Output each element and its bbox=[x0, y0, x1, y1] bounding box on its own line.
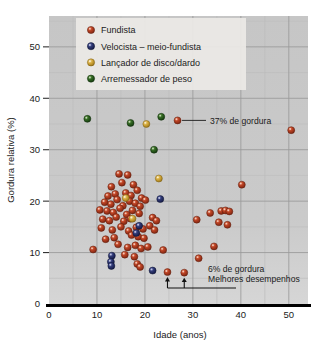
data-point-highlight bbox=[106, 194, 108, 196]
data-point bbox=[108, 183, 115, 190]
data-point-highlight bbox=[208, 211, 210, 213]
legend-marker-highlight bbox=[89, 44, 91, 46]
data-point bbox=[101, 199, 108, 206]
data-point bbox=[96, 206, 103, 213]
data-point-highlight bbox=[109, 202, 111, 204]
legend-marker-arremessador bbox=[87, 75, 94, 82]
x-tick-label: 20 bbox=[140, 309, 151, 320]
data-point bbox=[140, 235, 147, 242]
x-axis-label: Idade (anos) bbox=[153, 329, 206, 340]
annotation-6-label-line2: Melhores desempenhos bbox=[208, 274, 300, 284]
data-point bbox=[158, 113, 165, 120]
data-point bbox=[207, 209, 214, 216]
data-point-highlight bbox=[182, 271, 184, 273]
legend-item-arremessador[interactable]: Arremessador de peso bbox=[87, 74, 192, 84]
legend-item-velocista[interactable]: Velocista – meio-fundista bbox=[87, 42, 201, 52]
legend-label-velocista: Velocista – meio-fundista bbox=[101, 42, 201, 52]
data-point bbox=[155, 175, 162, 182]
data-point-highlight bbox=[289, 128, 291, 130]
data-point-highlight bbox=[126, 245, 128, 247]
chart-canvas: 01020304050 01020304050 37% de gordura 6… bbox=[0, 0, 321, 344]
data-point-highlight bbox=[125, 212, 127, 214]
data-point bbox=[151, 146, 158, 153]
y-tick-label: 20 bbox=[29, 196, 40, 207]
data-point-highlight bbox=[110, 254, 112, 256]
data-point bbox=[138, 245, 145, 252]
data-point-highlight bbox=[116, 242, 118, 244]
data-point bbox=[143, 121, 150, 128]
data-point bbox=[144, 243, 151, 250]
legend-marker-fundista bbox=[87, 26, 94, 33]
legend-marker-highlight bbox=[89, 28, 91, 30]
data-point-highlight bbox=[143, 198, 145, 200]
data-point-highlight bbox=[212, 244, 214, 246]
data-point-highlight bbox=[154, 219, 156, 221]
data-point bbox=[118, 179, 125, 186]
data-point bbox=[107, 201, 114, 208]
y-tick-label: 0 bbox=[35, 298, 40, 309]
data-point bbox=[116, 170, 123, 177]
data-point bbox=[104, 207, 111, 214]
data-point-highlight bbox=[131, 183, 133, 185]
legend-item-lancador[interactable]: Lançador de disco/dardo bbox=[87, 58, 200, 68]
data-point bbox=[238, 181, 245, 188]
annotation-6-label-line1: 6% de gordura bbox=[208, 264, 265, 274]
data-point-highlight bbox=[130, 208, 132, 210]
data-point-highlight bbox=[144, 122, 146, 124]
data-point bbox=[124, 244, 131, 251]
legend-marker-lancador bbox=[87, 59, 94, 66]
data-point-highlight bbox=[159, 115, 161, 117]
data-point bbox=[129, 215, 136, 222]
data-point-highlight bbox=[153, 228, 155, 230]
data-point bbox=[111, 234, 118, 241]
data-point-highlight bbox=[151, 216, 153, 218]
data-point-highlight bbox=[109, 264, 111, 266]
data-point-highlight bbox=[157, 176, 159, 178]
data-point-highlight bbox=[219, 209, 221, 211]
data-point-highlight bbox=[142, 236, 144, 238]
data-point-highlight bbox=[152, 148, 154, 150]
data-point-highlight bbox=[135, 262, 137, 264]
data-point-highlight bbox=[227, 209, 229, 211]
data-point-highlight bbox=[133, 243, 135, 245]
y-tick-label: 30 bbox=[29, 144, 40, 155]
data-point-highlight bbox=[133, 201, 135, 203]
data-point-highlight bbox=[119, 225, 121, 227]
data-point bbox=[90, 246, 97, 253]
data-point-highlight bbox=[124, 196, 126, 198]
data-point-highlight bbox=[140, 196, 142, 198]
x-tick-label: 30 bbox=[188, 309, 199, 320]
data-point bbox=[136, 222, 143, 229]
data-point-highlight bbox=[148, 224, 150, 226]
data-point bbox=[137, 263, 144, 270]
data-point-highlight bbox=[135, 188, 137, 190]
data-point-highlight bbox=[129, 121, 131, 123]
data-point-highlight bbox=[132, 255, 134, 257]
data-point bbox=[160, 247, 167, 254]
data-point bbox=[226, 208, 233, 215]
data-point bbox=[127, 119, 134, 126]
data-point-highlight bbox=[126, 173, 128, 175]
data-point-highlight bbox=[138, 204, 140, 206]
data-point-highlight bbox=[111, 210, 113, 212]
legend[interactable]: FundistaVelocista – meio-fundistaLançado… bbox=[76, 18, 246, 90]
data-point bbox=[210, 243, 217, 250]
data-point bbox=[151, 226, 158, 233]
data-point-highlight bbox=[123, 253, 125, 255]
y-axis-label: Gordura relativa (%) bbox=[5, 117, 16, 203]
data-point-highlight bbox=[118, 206, 120, 208]
data-point-highlight bbox=[130, 217, 132, 219]
data-point-highlight bbox=[127, 229, 129, 231]
data-point bbox=[142, 197, 149, 204]
y-tick-label: 10 bbox=[29, 247, 40, 258]
legend-marker-highlight bbox=[89, 76, 91, 78]
data-point-highlight bbox=[161, 248, 163, 250]
data-point bbox=[84, 115, 91, 122]
data-point bbox=[129, 207, 136, 214]
data-point bbox=[106, 217, 113, 224]
data-point bbox=[121, 251, 128, 258]
y-tick-label: 50 bbox=[29, 41, 40, 52]
legend-marker-velocista bbox=[87, 43, 94, 50]
data-point bbox=[115, 241, 122, 248]
data-point bbox=[174, 117, 181, 124]
